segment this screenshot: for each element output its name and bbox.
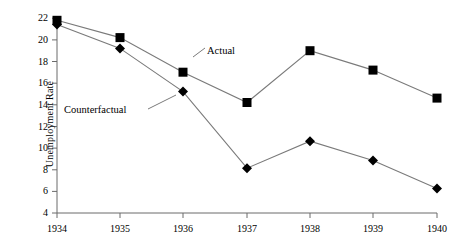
series-annotation-counterfactual: Counterfactual	[64, 105, 126, 116]
y-tick-label: 12	[28, 122, 48, 132]
annotation-leader-actual	[193, 48, 205, 57]
y-tick-label: 8	[28, 165, 48, 175]
chart-plot-area	[0, 0, 456, 248]
chart-container: Unemployment Rate 22 20 18 16 14 12 10 8…	[0, 0, 456, 248]
series-line-actual	[57, 20, 437, 102]
y-tick-label: 14	[28, 100, 48, 110]
y-tick-label: 4	[28, 208, 48, 218]
x-tick-label: 1936	[173, 224, 193, 234]
x-tick-label: 1934	[47, 224, 67, 234]
annotation-leader-counterfactual	[148, 95, 176, 109]
x-tick-label: 1937	[237, 224, 257, 234]
y-tick-label: 18	[28, 57, 48, 67]
x-axis-ticks	[57, 213, 437, 218]
y-tick-label: 22	[28, 13, 48, 23]
y-tick-label: 16	[28, 78, 48, 88]
y-tick-label: 20	[28, 35, 48, 45]
x-tick-label: 1935	[110, 224, 130, 234]
series-annotation-actual: Actual	[207, 46, 235, 57]
series-markers-actual	[53, 16, 442, 107]
y-tick-label: 6	[28, 186, 48, 196]
y-tick-label: 10	[28, 143, 48, 153]
x-tick-label: 1939	[363, 224, 383, 234]
x-tick-label: 1940	[427, 224, 447, 234]
x-tick-label: 1938	[300, 224, 320, 234]
